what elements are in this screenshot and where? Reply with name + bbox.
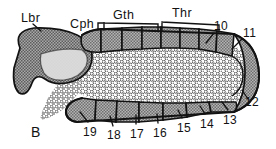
label-segment-19: 19 xyxy=(83,125,97,139)
label-gth: Gth xyxy=(113,8,134,22)
label-segment-14: 14 xyxy=(200,117,214,131)
label-thr: Thr xyxy=(172,6,192,20)
panel-label: B xyxy=(31,124,41,140)
figure-panel: Lbr Cph Gth Thr 10 11 12 19 18 17 16 15 … xyxy=(0,0,276,149)
label-segment-17: 17 xyxy=(130,127,144,141)
label-segment-11: 11 xyxy=(243,26,256,40)
label-segment-18: 18 xyxy=(107,128,121,142)
anatomical-diagram-svg: Lbr Cph Gth Thr 10 11 12 19 18 17 16 15 … xyxy=(0,0,276,149)
label-segment-12: 12 xyxy=(245,95,259,109)
label-lbr: Lbr xyxy=(21,11,40,25)
label-segment-13: 13 xyxy=(223,113,237,127)
label-cph: Cph xyxy=(70,17,94,31)
label-segment-15: 15 xyxy=(177,121,191,135)
label-segment-16: 16 xyxy=(153,126,167,140)
label-segment-10: 10 xyxy=(214,19,228,33)
